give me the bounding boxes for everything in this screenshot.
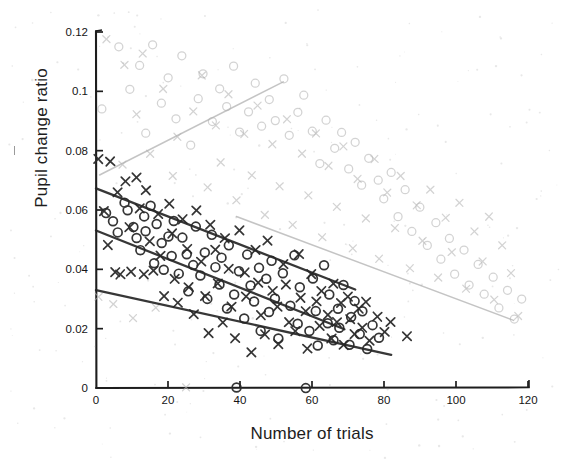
speckle xyxy=(110,457,111,458)
speckle xyxy=(164,414,166,416)
speckle xyxy=(186,412,187,413)
data-point-circle xyxy=(295,283,304,292)
speckle xyxy=(323,222,325,224)
speckle xyxy=(32,286,34,288)
speckle xyxy=(389,159,391,161)
speckle xyxy=(50,236,52,238)
data-point-cross xyxy=(145,237,154,246)
speckle xyxy=(529,109,531,111)
data-point-cross xyxy=(139,50,146,57)
data-point-circle xyxy=(194,95,202,103)
speckle xyxy=(10,230,12,232)
speckle xyxy=(331,142,332,143)
speckle xyxy=(85,149,87,151)
speckle xyxy=(210,303,212,305)
data-point-circle xyxy=(408,227,416,235)
data-point-circle xyxy=(460,246,468,254)
data-point-cross xyxy=(362,215,369,222)
data-point-cross xyxy=(485,213,492,220)
speckle xyxy=(55,350,57,352)
data-point-cross xyxy=(386,318,394,326)
data-point-circle xyxy=(230,62,238,70)
speckle xyxy=(443,332,445,334)
data-point-circle xyxy=(432,219,440,227)
speckle xyxy=(329,259,331,261)
speckle xyxy=(145,95,147,97)
speckle xyxy=(156,56,157,57)
data-point-circle xyxy=(474,260,482,268)
speckle xyxy=(176,401,178,403)
speckle xyxy=(155,241,157,243)
data-point-cross xyxy=(248,172,255,179)
speckle xyxy=(514,303,515,304)
speckle xyxy=(462,435,464,437)
speckle xyxy=(399,55,400,56)
speckle xyxy=(35,199,36,200)
data-point-cross xyxy=(282,280,291,289)
data-point-cross xyxy=(406,265,413,272)
data-point-circle xyxy=(98,105,106,113)
speckle xyxy=(418,114,420,116)
speckle xyxy=(526,409,528,411)
speckle xyxy=(262,251,263,252)
speckle xyxy=(162,82,164,84)
trend-lines-group xyxy=(96,82,514,355)
speckle xyxy=(513,334,515,336)
speckle xyxy=(386,423,388,425)
data-point-circle xyxy=(132,234,141,243)
speckle xyxy=(174,182,176,184)
speckle xyxy=(329,384,331,386)
speckle xyxy=(203,273,204,274)
speckle xyxy=(252,317,254,319)
data-point-cross xyxy=(384,189,391,196)
speckle xyxy=(330,314,331,315)
data-point-cross xyxy=(192,206,201,215)
speckle xyxy=(359,104,361,106)
speckle xyxy=(172,330,174,332)
data-point-circle xyxy=(489,273,497,281)
speckle xyxy=(509,126,511,128)
speckle xyxy=(255,446,257,448)
data-point-circle xyxy=(265,96,273,104)
speckle xyxy=(180,85,181,86)
speckle xyxy=(317,9,319,11)
speckle xyxy=(404,225,406,227)
speckle xyxy=(456,173,457,174)
data-point-circle xyxy=(445,234,453,242)
plot-canvas xyxy=(0,0,570,474)
data-point-cross xyxy=(403,332,412,341)
speckle xyxy=(437,419,439,421)
speckle xyxy=(54,427,55,428)
data-point-cross xyxy=(435,274,442,281)
speckle xyxy=(202,390,204,392)
data-point-circle xyxy=(293,319,302,328)
data-point-circle xyxy=(178,52,186,60)
speckle xyxy=(258,438,260,440)
speckle xyxy=(279,250,280,251)
data-point-cross xyxy=(165,200,173,208)
data-point-cross xyxy=(104,241,113,250)
data-point-cross xyxy=(333,203,340,210)
speckle xyxy=(407,273,409,275)
series-dark-crosses xyxy=(94,155,411,357)
data-point-cross xyxy=(365,336,373,344)
speckle xyxy=(489,227,491,229)
data-point-cross xyxy=(298,150,305,157)
speckle xyxy=(520,74,522,76)
speckle xyxy=(31,79,33,81)
data-point-cross xyxy=(217,159,224,166)
data-point-cross xyxy=(315,322,323,330)
speckle xyxy=(180,215,181,216)
data-point-circle xyxy=(351,138,359,146)
speckle xyxy=(191,319,193,321)
data-point-cross xyxy=(490,296,497,303)
speckle xyxy=(501,414,503,416)
data-point-circle xyxy=(245,108,253,116)
speckle xyxy=(77,68,79,70)
speckle xyxy=(64,305,66,307)
speckle xyxy=(313,449,314,450)
speckle xyxy=(509,277,511,279)
speckle xyxy=(160,18,161,19)
speckle xyxy=(99,46,100,47)
data-point-circle xyxy=(115,43,123,51)
